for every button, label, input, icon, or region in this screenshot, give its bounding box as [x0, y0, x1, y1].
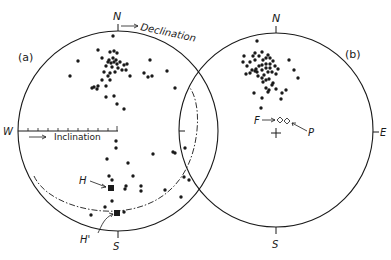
data-point: [268, 66, 271, 69]
panel-a-west-label: W: [3, 126, 14, 137]
data-point: [118, 60, 121, 63]
p-label: P: [308, 127, 315, 138]
h-arrow-icon: [90, 181, 106, 188]
data-point: [124, 184, 127, 187]
h-label: H: [79, 175, 87, 186]
panel-b-data-points: [241, 39, 299, 109]
data-point: [104, 64, 107, 67]
data-point: [266, 53, 269, 56]
data-point: [128, 74, 131, 77]
panel-a-label: (a): [18, 51, 33, 64]
data-point: [125, 62, 128, 65]
data-point: [109, 61, 112, 64]
data-point: [139, 189, 142, 192]
data-point: [103, 205, 106, 208]
data-point: [292, 68, 295, 71]
data-point: [257, 54, 260, 57]
data-point: [266, 70, 269, 73]
data-point: [270, 83, 273, 86]
data-point: [250, 68, 253, 71]
point-f-diamond: [277, 117, 283, 123]
data-point: [259, 106, 262, 109]
data-point: [268, 56, 271, 59]
stereonet-figure: N Declination (a) W Inclination H H' S N…: [0, 0, 391, 260]
data-point: [253, 58, 256, 61]
data-point: [96, 84, 99, 87]
p-arrow-icon: [292, 123, 307, 131]
declination-arrow-icon: [121, 24, 138, 28]
data-point: [287, 58, 290, 61]
data-point: [284, 88, 287, 91]
data-point: [96, 48, 99, 51]
data-point: [280, 91, 283, 94]
data-point: [270, 70, 273, 73]
data-point: [187, 178, 190, 181]
data-point: [173, 151, 176, 154]
data-point: [271, 59, 274, 62]
data-point: [123, 187, 126, 190]
panel-a-south-label: S: [113, 241, 120, 252]
panel-a-north-label: N: [113, 10, 121, 23]
data-point: [139, 184, 142, 187]
open-diamond-markers: [277, 117, 290, 124]
data-point: [163, 188, 166, 191]
inclination-label: Inclination: [54, 132, 101, 142]
data-point: [261, 58, 264, 61]
point-h-prime-square: [114, 210, 120, 216]
panel-b-south-label: S: [272, 239, 279, 250]
data-point: [262, 73, 265, 76]
data-point: [266, 90, 269, 93]
data-point: [124, 68, 127, 71]
data-point: [260, 68, 263, 71]
data-point: [116, 66, 119, 69]
data-point: [122, 210, 125, 213]
data-point: [268, 62, 271, 65]
data-point: [264, 78, 267, 81]
data-point: [244, 72, 247, 75]
data-point: [112, 60, 115, 63]
data-point: [108, 71, 111, 74]
panel-a: [18, 24, 218, 238]
data-point: [115, 51, 118, 54]
data-point: [253, 51, 256, 54]
data-point: [165, 69, 168, 72]
data-point: [264, 86, 267, 89]
data-point: [102, 70, 105, 73]
data-point: [261, 80, 264, 83]
data-point: [104, 95, 107, 98]
data-point: [182, 175, 185, 178]
data-point: [114, 139, 117, 142]
inclination-scale-ticks: [28, 126, 117, 131]
data-point: [76, 59, 79, 62]
data-point: [241, 60, 244, 63]
data-point: [256, 74, 259, 77]
data-point: [112, 49, 115, 52]
data-point: [108, 78, 111, 81]
data-point: [122, 63, 125, 66]
data-point: [267, 77, 270, 80]
data-point: [112, 94, 115, 97]
data-point: [120, 68, 123, 71]
data-point: [106, 74, 109, 77]
data-point: [257, 64, 260, 67]
data-point: [122, 107, 125, 110]
data-point: [264, 62, 267, 65]
data-point: [106, 60, 109, 63]
data-point: [110, 199, 113, 202]
data-point: [110, 178, 113, 181]
data-point: [113, 70, 116, 73]
data-point: [255, 39, 258, 42]
data-point: [179, 195, 182, 198]
point-h-square: [108, 185, 114, 191]
panel-b-north-label: N: [272, 12, 280, 25]
data-point: [274, 72, 277, 75]
data-point: [151, 152, 154, 155]
data-point: [273, 64, 276, 67]
data-point: [95, 87, 98, 90]
data-point: [111, 34, 114, 37]
data-point: [279, 97, 282, 100]
data-point: [260, 50, 263, 53]
data-point: [264, 66, 267, 69]
data-point: [107, 174, 110, 177]
panel-b-label: (b): [345, 48, 361, 61]
